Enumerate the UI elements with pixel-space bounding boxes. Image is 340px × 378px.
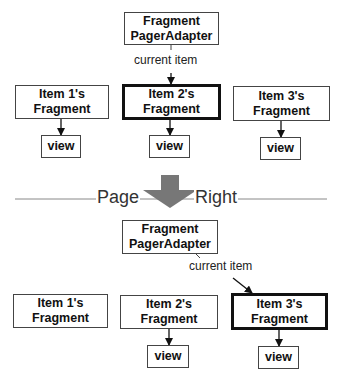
item1-line1: Item 1's [39,87,85,102]
page-label: Page [96,187,140,208]
adapter-line1: Fragment [142,222,199,237]
current-item-arrow-bottom [233,278,252,293]
item1-fragment-top: Item 1's Fragment [15,85,109,119]
item2-fragment-bottom: Item 2's Fragment [120,295,218,329]
item1-line2: Fragment [34,102,91,117]
item3-view-bottom: view [258,346,299,369]
item1-line1: Item 1's [37,296,83,311]
item3-line1: Item 3's [256,297,302,312]
item3-line2: Fragment [253,104,310,119]
item1-view-top: view [41,135,81,158]
current-item-label-bottom: current item [189,259,252,273]
item3-view-top: view [260,137,301,160]
item3-fragment-bottom-current: Item 3's Fragment [231,293,328,330]
item2-line2: Fragment [141,312,198,327]
current-item-label-top: current item [134,53,197,67]
adapter-line2: PagerAdapter [131,29,213,44]
item2-view-bottom: view [147,345,189,368]
item1-line2: Fragment [32,311,89,326]
item2-line1: Item 2's [148,87,194,102]
item2-line2: Fragment [143,102,200,117]
fragment-pager-adapter-bottom: Fragment PagerAdapter [122,220,218,254]
adapter-line2: PagerAdapter [129,237,211,252]
adapter-line1: Fragment [143,14,200,29]
fragment-pager-adapter-top: Fragment PagerAdapter [124,12,219,45]
adapter-tick-bottom [196,254,200,258]
right-label: Right [194,187,238,208]
item1-fragment-bottom: Item 1's Fragment [13,294,108,328]
item3-line2: Fragment [251,312,308,327]
item2-fragment-top-current: Item 2's Fragment [122,84,221,120]
item3-fragment-top: Item 3's Fragment [233,86,330,121]
item2-line1: Item 2's [146,297,192,312]
page-down-arrow-icon [143,175,197,208]
item3-line1: Item 3's [258,89,304,104]
item2-view-top: view [149,135,190,158]
